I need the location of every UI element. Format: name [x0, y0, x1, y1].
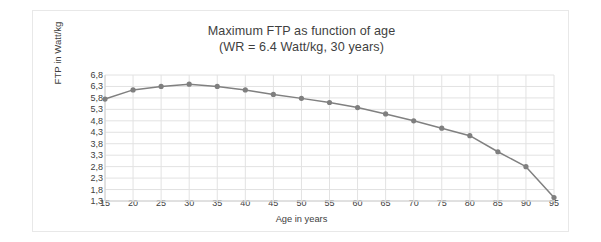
chart-card: Maximum FTP as function of age (WR = 6.4… [32, 10, 569, 232]
data-point [327, 100, 332, 105]
data-point [523, 164, 528, 169]
data-point [495, 149, 500, 154]
data-point [187, 82, 192, 87]
data-point [383, 111, 388, 116]
x-axis-title: Age in years [33, 214, 570, 224]
x-axis-title-label: Age in years [276, 214, 328, 224]
data-point [551, 195, 556, 200]
data-point [355, 105, 360, 110]
data-point [411, 118, 416, 123]
gridlines [105, 75, 554, 201]
data-point [271, 92, 276, 97]
data-point [130, 87, 135, 92]
plot-area: FTP in Watt/kg 6,86,35,85,34,84,33,83,32… [33, 11, 570, 233]
data-point [467, 133, 472, 138]
data-point [439, 126, 444, 131]
data-point [243, 87, 248, 92]
data-point [299, 96, 304, 101]
chart-svg [33, 11, 570, 233]
data-point [215, 84, 220, 89]
data-point [102, 96, 107, 101]
data-point [159, 84, 164, 89]
